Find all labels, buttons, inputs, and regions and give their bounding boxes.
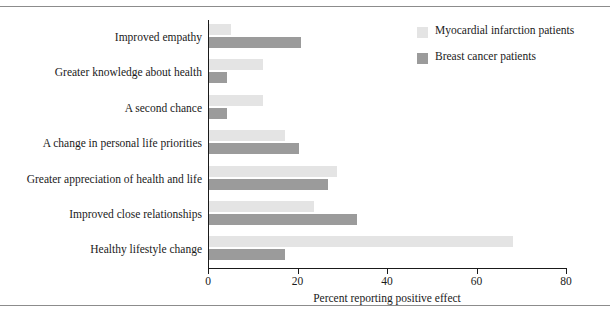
x-axis-tick-label: 40 <box>381 275 393 287</box>
x-axis-tick <box>208 268 209 274</box>
bar-breast-cancer-patients <box>209 37 301 48</box>
category-label: Improved empathy <box>0 31 202 43</box>
legend-swatch-icon-light <box>417 27 428 38</box>
bar-myocardial-infarction-patients <box>209 95 263 106</box>
bar-myocardial-infarction-patients <box>209 236 513 247</box>
x-axis-tick-label: 80 <box>560 275 572 287</box>
legend-label: Breast cancer patients <box>435 50 536 62</box>
bar-myocardial-infarction-patients <box>209 59 263 70</box>
x-axis-tick <box>566 268 567 274</box>
x-axis-title: Percent reporting positive effect <box>208 292 566 304</box>
bar-myocardial-infarction-patients <box>209 130 285 141</box>
legend-swatch-icon-dark <box>417 53 428 64</box>
figure-container: 020406080 Percent reporting positive eff… <box>0 0 610 319</box>
category-label: Greater knowledge about health <box>0 66 202 78</box>
bar-myocardial-infarction-patients <box>209 166 337 177</box>
top-divider-rule <box>0 6 610 7</box>
bar-breast-cancer-patients <box>209 143 299 154</box>
bar-group: Healthy lifestyle change <box>0 233 610 268</box>
x-axis-tick-label: 20 <box>292 275 304 287</box>
legend-label: Myocardial infarction patients <box>435 24 574 36</box>
x-axis-tick-label: 60 <box>471 275 483 287</box>
category-label: Healthy lifestyle change <box>0 243 202 255</box>
bar-group: Greater appreciation of health and life <box>0 163 610 198</box>
bar-breast-cancer-patients <box>209 179 328 190</box>
x-axis-tick <box>298 268 299 274</box>
bar-group: A change in personal life priorities <box>0 127 610 162</box>
x-axis-tick <box>477 268 478 274</box>
bottom-divider-rule <box>0 305 610 306</box>
category-label: A change in personal life priorities <box>0 137 202 149</box>
x-axis-tick-label: 0 <box>205 275 211 287</box>
bar-breast-cancer-patients <box>209 72 227 83</box>
bar-breast-cancer-patients <box>209 214 357 225</box>
category-label: Improved close relationships <box>0 208 202 220</box>
bar-group: A second chance <box>0 92 610 127</box>
bar-breast-cancer-patients <box>209 108 227 119</box>
bar-breast-cancer-patients <box>209 249 285 260</box>
x-axis-tick <box>387 268 388 274</box>
bar-myocardial-infarction-patients <box>209 201 314 212</box>
bar-group: Improved close relationships <box>0 198 610 233</box>
category-label: Greater appreciation of health and life <box>0 173 202 185</box>
bar-myocardial-infarction-patients <box>209 24 231 35</box>
category-label: A second chance <box>0 102 202 114</box>
